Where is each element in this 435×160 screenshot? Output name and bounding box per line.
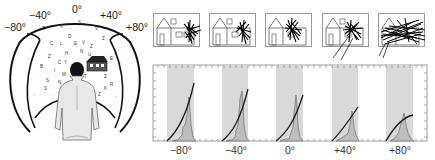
- svg-text:H: H: [65, 51, 68, 56]
- svg-text:L: L: [60, 41, 63, 46]
- svg-text:Z: Z: [102, 36, 105, 41]
- angle-label-0: 0°: [72, 4, 82, 15]
- svg-text:S: S: [78, 20, 81, 25]
- svg-text:S: S: [44, 86, 47, 91]
- angle-label-plus80: +80°: [126, 22, 148, 33]
- svg-text:V: V: [95, 26, 98, 31]
- house-target: [86, 56, 108, 71]
- svg-text:Z: Z: [48, 54, 51, 59]
- svg-text:C: C: [50, 41, 54, 46]
- svg-text:E: E: [110, 56, 113, 61]
- svg-text:.: .: [118, 46, 119, 51]
- thumbnail-minus40: [209, 13, 256, 47]
- svg-text:U: U: [88, 52, 91, 57]
- thumbnail-plus80: [378, 13, 425, 47]
- svg-text:R: R: [110, 82, 114, 87]
- svg-text:C: C: [58, 60, 62, 65]
- svg-text:Y: Y: [64, 60, 67, 65]
- svg-text:.: .: [118, 78, 119, 83]
- svg-text:B: B: [40, 64, 43, 69]
- svg-text:I: I: [54, 68, 55, 73]
- x-label-minus40: −40°: [225, 145, 247, 156]
- thumbnail-plus40: [322, 13, 369, 47]
- x-label-plus40: +40°: [334, 145, 356, 156]
- svg-text:V: V: [82, 40, 85, 45]
- svg-text:K: K: [104, 86, 107, 91]
- svg-text:D: D: [68, 34, 72, 39]
- x-label-plus80: +80°: [389, 145, 411, 156]
- svg-text:': ': [34, 94, 35, 99]
- thumbnail-0: [265, 13, 312, 47]
- dome-illustration: ZVSV DCLE VZHN UZCY MITC ZSNE KRBS .'.' …: [0, 0, 150, 160]
- angle-label-plus40: +40°: [100, 10, 122, 21]
- svg-text:': ': [70, 28, 71, 33]
- svg-text:': ': [116, 96, 117, 101]
- svg-text:.: .: [50, 92, 51, 97]
- svg-text:Z: Z: [42, 26, 45, 31]
- thumbnail-row: [150, 0, 435, 55]
- svg-text:Z: Z: [90, 44, 93, 49]
- x-label-0: 0°: [285, 145, 295, 156]
- svg-text:Z: Z: [104, 74, 107, 79]
- svg-text:M: M: [62, 72, 66, 77]
- angle-label-minus80: −80°: [4, 22, 26, 33]
- svg-text:.: .: [30, 76, 31, 81]
- svg-text:E: E: [74, 41, 77, 46]
- svg-text:S: S: [46, 78, 49, 83]
- svg-text:': ': [28, 58, 29, 63]
- fixation-chart: −80° −40° 0° +40° +80°: [150, 55, 435, 160]
- svg-text:N: N: [80, 49, 83, 54]
- x-label-minus80: −80°: [170, 145, 192, 156]
- svg-text:': ': [120, 62, 121, 67]
- svg-text:Z: Z: [98, 92, 101, 97]
- svg-text:T: T: [84, 74, 87, 79]
- angle-label-minus40: −40°: [29, 10, 51, 21]
- svg-text:N: N: [58, 80, 61, 85]
- svg-text:V: V: [60, 24, 63, 29]
- thumbnail-minus80: [153, 13, 200, 47]
- svg-text:.: .: [30, 46, 31, 51]
